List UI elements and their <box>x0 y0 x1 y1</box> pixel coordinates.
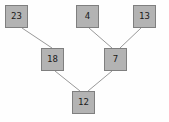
tree-node-label: 23 <box>11 12 22 21</box>
tree-edge <box>22 28 52 48</box>
tree-edge <box>88 71 112 91</box>
tree-node-label: 4 <box>85 12 90 21</box>
tree-node[interactable]: 23 <box>5 5 28 28</box>
tree-edge <box>55 71 80 91</box>
tree-node[interactable]: 4 <box>76 5 99 28</box>
tree-node-label: 7 <box>113 55 118 64</box>
tree-node-label: 18 <box>47 55 58 64</box>
tree-node[interactable]: 13 <box>133 5 156 28</box>
tree-edge <box>89 28 112 48</box>
tree-node[interactable]: 7 <box>104 48 127 71</box>
tree-edge <box>120 28 141 48</box>
tree-diagram-canvas: 2341318712 <box>0 0 169 122</box>
tree-node-label: 13 <box>139 12 150 21</box>
tree-node-label: 12 <box>78 98 89 107</box>
tree-node[interactable]: 12 <box>72 91 95 114</box>
tree-node[interactable]: 18 <box>41 48 64 71</box>
